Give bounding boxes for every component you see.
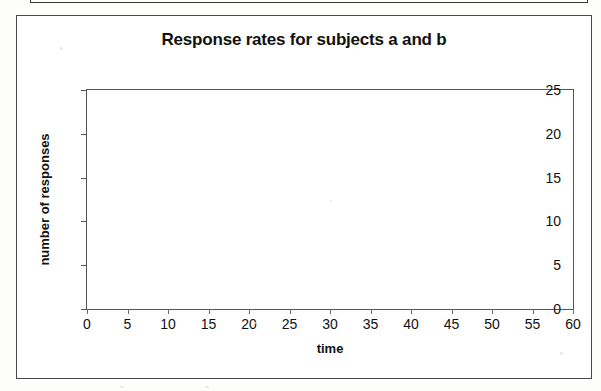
y-axis-tick xyxy=(81,134,87,135)
scan-speckle xyxy=(120,386,124,388)
x-axis-tick xyxy=(168,309,169,314)
x-axis-tick-label: 50 xyxy=(472,317,512,331)
x-axis-tick-label: 25 xyxy=(270,317,310,331)
y-axis-tick xyxy=(81,265,87,266)
y-axis-tick-label: 20 xyxy=(521,127,561,141)
x-axis-tick xyxy=(533,309,534,314)
x-axis-tick-label: 20 xyxy=(229,317,269,331)
x-axis-tick xyxy=(371,309,372,314)
x-axis-tick xyxy=(128,309,129,314)
y-axis-tick xyxy=(81,90,87,91)
scanned-page: Response rates for subjects a and b numb… xyxy=(0,0,601,391)
x-axis-tick-label: 0 xyxy=(67,317,107,331)
x-axis-tick-label: 30 xyxy=(310,317,350,331)
x-axis-tick xyxy=(573,309,574,314)
y-axis-tick-label: 25 xyxy=(521,83,561,97)
x-axis-tick xyxy=(452,309,453,314)
x-axis-tick-label: 55 xyxy=(513,317,553,331)
x-axis-title: time xyxy=(86,341,574,356)
y-axis-tick-label: 10 xyxy=(521,214,561,228)
y-axis-tick-label: 5 xyxy=(521,258,561,272)
upper-figure-frame-partial xyxy=(30,0,588,3)
x-axis-tick-label: 45 xyxy=(432,317,472,331)
x-axis-tick xyxy=(249,309,250,314)
plot-area: 0510152025051015202530354045505560 xyxy=(86,89,574,310)
x-axis-tick-label: 60 xyxy=(553,317,593,331)
x-axis-tick-label: 10 xyxy=(148,317,188,331)
y-axis-tick xyxy=(81,178,87,179)
x-axis-tick-label: 35 xyxy=(351,317,391,331)
x-axis-tick-label: 15 xyxy=(189,317,229,331)
y-axis-tick-label: 0 xyxy=(521,302,561,316)
y-axis-tick-label: 15 xyxy=(521,171,561,185)
x-axis-tick-label: 5 xyxy=(108,317,148,331)
chart-frame: Response rates for subjects a and b numb… xyxy=(16,15,592,379)
x-axis-tick xyxy=(411,309,412,314)
y-axis-title: number of responses xyxy=(37,89,53,310)
x-axis-tick xyxy=(492,309,493,314)
x-axis-tick xyxy=(209,309,210,314)
chart-title: Response rates for subjects a and b xyxy=(17,30,591,50)
x-axis-tick xyxy=(290,309,291,314)
x-axis-tick xyxy=(330,309,331,314)
x-axis-tick xyxy=(87,309,88,314)
x-axis-tick-label: 40 xyxy=(391,317,431,331)
scan-speckle xyxy=(205,386,209,388)
y-axis-tick xyxy=(81,221,87,222)
